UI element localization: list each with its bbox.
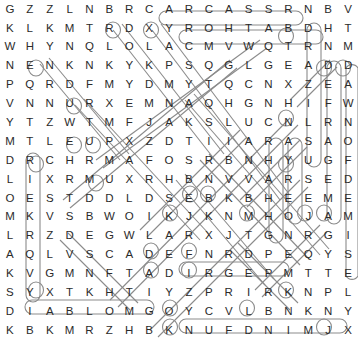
- grid-cell-r10-c4[interactable]: D: [80, 189, 100, 208]
- grid-cell-r17-c5[interactable]: Z: [99, 321, 119, 340]
- grid-cell-r5-c9[interactable]: A: [179, 94, 199, 113]
- grid-cell-r6-c10[interactable]: S: [199, 113, 219, 132]
- grid-cell-r17-c9[interactable]: N: [179, 321, 199, 340]
- grid-cell-r1-c9[interactable]: R: [179, 19, 199, 38]
- grid-cell-r1-c3[interactable]: M: [60, 19, 80, 38]
- grid-cell-r15-c9[interactable]: Z: [179, 283, 199, 302]
- grid-cell-r5-c15[interactable]: I: [298, 94, 318, 113]
- grid-cell-r3-c14[interactable]: E: [278, 57, 298, 76]
- grid-cell-r17-c2[interactable]: K: [40, 321, 60, 340]
- grid-cell-r16-c11[interactable]: V: [219, 302, 239, 321]
- grid-cell-r5-c16[interactable]: F: [318, 94, 338, 113]
- grid-cell-r12-c2[interactable]: Z: [40, 227, 60, 246]
- grid-cell-r8-c15[interactable]: U: [298, 151, 318, 170]
- grid-cell-r11-c12[interactable]: M: [239, 208, 259, 227]
- grid-cell-r14-c14[interactable]: M: [278, 264, 298, 283]
- grid-cell-r14-c16[interactable]: T: [318, 264, 338, 283]
- grid-cell-r8-c1[interactable]: R: [20, 151, 40, 170]
- grid-cell-r0-c6[interactable]: R: [119, 0, 139, 19]
- grid-cell-r9-c0[interactable]: L: [0, 170, 20, 189]
- grid-cell-r1-c4[interactable]: T: [80, 19, 100, 38]
- grid-cell-r15-c16[interactable]: P: [318, 283, 338, 302]
- grid-cell-r13-c11[interactable]: R: [219, 246, 239, 265]
- grid-cell-r1-c5[interactable]: R: [99, 19, 119, 38]
- grid-cell-r10-c16[interactable]: M: [318, 189, 338, 208]
- grid-cell-r7-c4[interactable]: U: [80, 132, 100, 151]
- grid-cell-r10-c5[interactable]: D: [99, 189, 119, 208]
- grid-cell-r2-c10[interactable]: M: [199, 38, 219, 57]
- grid-cell-r6-c7[interactable]: J: [139, 113, 159, 132]
- grid-cell-r6-c6[interactable]: F: [119, 113, 139, 132]
- grid-cell-r7-c17[interactable]: O: [338, 132, 358, 151]
- grid-cell-r4-c10[interactable]: T: [199, 76, 219, 95]
- grid-cell-r4-c13[interactable]: N: [259, 76, 279, 95]
- grid-cell-r5-c1[interactable]: N: [20, 94, 40, 113]
- grid-cell-r8-c17[interactable]: F: [338, 151, 358, 170]
- grid-cell-r9-c12[interactable]: V: [239, 170, 259, 189]
- grid-cell-r13-c16[interactable]: Y: [318, 246, 338, 265]
- grid-cell-r11-c9[interactable]: J: [179, 208, 199, 227]
- grid-cell-r12-c17[interactable]: I: [338, 227, 358, 246]
- grid-cell-r17-c13[interactable]: N: [259, 321, 279, 340]
- grid-cell-r10-c7[interactable]: D: [139, 189, 159, 208]
- grid-cell-r8-c9[interactable]: S: [179, 151, 199, 170]
- grid-cell-r15-c13[interactable]: R: [259, 283, 279, 302]
- grid-cell-r12-c7[interactable]: L: [139, 227, 159, 246]
- grid-cell-r3-c16[interactable]: D: [318, 57, 338, 76]
- grid-cell-r9-c1[interactable]: I: [20, 170, 40, 189]
- grid-cell-r9-c7[interactable]: R: [139, 170, 159, 189]
- grid-cell-r5-c8[interactable]: N: [159, 94, 179, 113]
- grid-cell-r7-c6[interactable]: X: [119, 132, 139, 151]
- grid-cell-r1-c0[interactable]: K: [0, 19, 20, 38]
- grid-cell-r15-c10[interactable]: P: [199, 283, 219, 302]
- grid-cell-r4-c2[interactable]: R: [40, 76, 60, 95]
- grid-cell-r13-c0[interactable]: A: [0, 246, 20, 265]
- grid-cell-r12-c8[interactable]: A: [159, 227, 179, 246]
- grid-cell-r16-c17[interactable]: Y: [338, 302, 358, 321]
- grid-cell-r2-c8[interactable]: A: [159, 38, 179, 57]
- grid-cell-r9-c16[interactable]: E: [318, 170, 338, 189]
- grid-cell-r0-c0[interactable]: G: [0, 0, 20, 19]
- grid-cell-r10-c9[interactable]: E: [179, 189, 199, 208]
- grid-cell-r1-c17[interactable]: T: [338, 19, 358, 38]
- grid-cell-r2-c3[interactable]: N: [60, 38, 80, 57]
- grid-cell-r8-c6[interactable]: A: [119, 151, 139, 170]
- grid-cell-r0-c10[interactable]: C: [199, 0, 219, 19]
- grid-cell-r6-c5[interactable]: M: [99, 113, 119, 132]
- grid-cell-r13-c17[interactable]: S: [338, 246, 358, 265]
- grid-cell-r16-c12[interactable]: L: [239, 302, 259, 321]
- grid-cell-r3-c17[interactable]: D: [338, 57, 358, 76]
- grid-cell-r1-c16[interactable]: H: [318, 19, 338, 38]
- grid-cell-r14-c9[interactable]: I: [179, 264, 199, 283]
- grid-cell-r4-c15[interactable]: Z: [298, 76, 318, 95]
- grid-cell-r4-c7[interactable]: D: [139, 76, 159, 95]
- grid-cell-r8-c12[interactable]: N: [239, 151, 259, 170]
- grid-cell-r7-c11[interactable]: I: [219, 132, 239, 151]
- grid-cell-r11-c13[interactable]: H: [259, 208, 279, 227]
- grid-cell-r8-c16[interactable]: G: [318, 151, 338, 170]
- grid-cell-r2-c13[interactable]: Q: [259, 38, 279, 57]
- grid-cell-r13-c9[interactable]: F: [179, 246, 199, 265]
- grid-cell-r13-c10[interactable]: N: [199, 246, 219, 265]
- grid-cell-r12-c13[interactable]: G: [259, 227, 279, 246]
- grid-cell-r15-c0[interactable]: S: [0, 283, 20, 302]
- grid-cell-r17-c6[interactable]: H: [119, 321, 139, 340]
- grid-cell-r11-c17[interactable]: M: [338, 208, 358, 227]
- grid-cell-r4-c9[interactable]: Y: [179, 76, 199, 95]
- grid-cell-r4-c12[interactable]: C: [239, 76, 259, 95]
- grid-cell-r6-c4[interactable]: T: [80, 113, 100, 132]
- grid-cell-r6-c0[interactable]: Y: [0, 113, 20, 132]
- grid-cell-r1-c6[interactable]: D: [119, 19, 139, 38]
- grid-cell-r7-c5[interactable]: P: [99, 132, 119, 151]
- grid-cell-r5-c13[interactable]: N: [259, 94, 279, 113]
- grid-cell-r2-c6[interactable]: O: [119, 38, 139, 57]
- grid-cell-r10-c17[interactable]: E: [338, 189, 358, 208]
- grid-cell-r2-c4[interactable]: Q: [80, 38, 100, 57]
- grid-cell-r10-c13[interactable]: H: [259, 189, 279, 208]
- grid-cell-r6-c14[interactable]: N: [278, 113, 298, 132]
- grid-cell-r17-c16[interactable]: J: [318, 321, 338, 340]
- grid-cell-r2-c17[interactable]: M: [338, 38, 358, 57]
- grid-cell-r9-c8[interactable]: H: [159, 170, 179, 189]
- grid-cell-r9-c9[interactable]: B: [179, 170, 199, 189]
- grid-cell-r6-c17[interactable]: N: [338, 113, 358, 132]
